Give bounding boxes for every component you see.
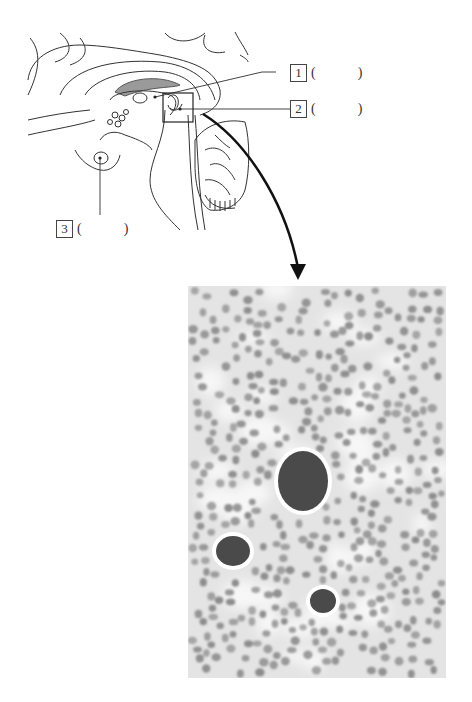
large-neuron-cell bbox=[310, 589, 336, 613]
large-neuron-cell bbox=[216, 536, 250, 566]
label-3: 3 ( ) bbox=[56, 220, 128, 238]
histology-micrograph bbox=[188, 286, 446, 678]
label-number-1: 1 bbox=[290, 64, 307, 82]
label-number-3: 3 bbox=[56, 220, 73, 238]
label-number-2: 2 bbox=[290, 100, 307, 118]
label-2: 2 ( ) bbox=[290, 100, 362, 118]
label-1: 1 ( ) bbox=[290, 64, 362, 82]
figure: 1 ( ) 2 ( ) 3 ( ) bbox=[0, 0, 472, 702]
large-neuron-cell bbox=[278, 451, 328, 511]
